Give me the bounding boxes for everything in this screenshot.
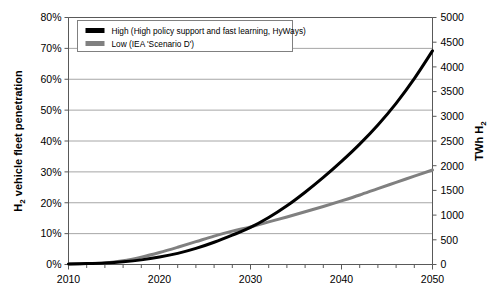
- chart-legend: High (High policy support and fast learn…: [78, 21, 307, 52]
- y-tick-label: 30%: [40, 166, 61, 178]
- x-tick-label: 2050: [421, 273, 445, 285]
- x-tick-label: 2010: [57, 273, 81, 285]
- y-tick-label: 70%: [40, 42, 61, 54]
- y-tick-label: 40%: [40, 135, 61, 147]
- x-tick-label: 2020: [148, 273, 172, 285]
- y2-tick-label: 500: [441, 234, 459, 246]
- y-tick-label: 20%: [40, 197, 61, 209]
- y2-tick-label: 3000: [441, 110, 465, 122]
- y2-tick-label: 2000: [441, 160, 465, 172]
- y2-tick-label: 3500: [441, 85, 465, 97]
- legend-label-low: Low (IEA 'Scenario D'): [112, 39, 195, 49]
- y-tick-label: 60%: [40, 73, 61, 85]
- y2-tick-label: 4000: [441, 61, 465, 73]
- x-tick-label: 2040: [330, 273, 354, 285]
- y2-tick-label: 5000: [441, 11, 465, 23]
- y-tick-label: 10%: [40, 227, 61, 239]
- x-tick-label: 2030: [239, 273, 263, 285]
- y-tick-label: 0%: [46, 258, 61, 270]
- y2-tick-label: 4500: [441, 36, 465, 48]
- legend-swatch-high: [86, 28, 105, 33]
- legend-label-high: High (High policy support and fast learn…: [112, 26, 307, 36]
- legend-swatch-low: [86, 41, 105, 46]
- chart-container: 20102020203020402050 0%10%20%30%40%50%60…: [0, 0, 499, 293]
- line-chart: 20102020203020402050 0%10%20%30%40%50%60…: [0, 0, 499, 293]
- y-tick-label: 50%: [40, 104, 61, 116]
- y-axis-tick-labels: 0%10%20%30%40%50%60%70%80%: [40, 11, 61, 270]
- y2-tick-label: 2500: [441, 135, 465, 147]
- y2-tick-label: 1000: [441, 209, 465, 221]
- y2-tick-label: 1500: [441, 184, 465, 196]
- y2-tick-label: 0: [441, 258, 447, 270]
- y-tick-label: 80%: [40, 11, 61, 23]
